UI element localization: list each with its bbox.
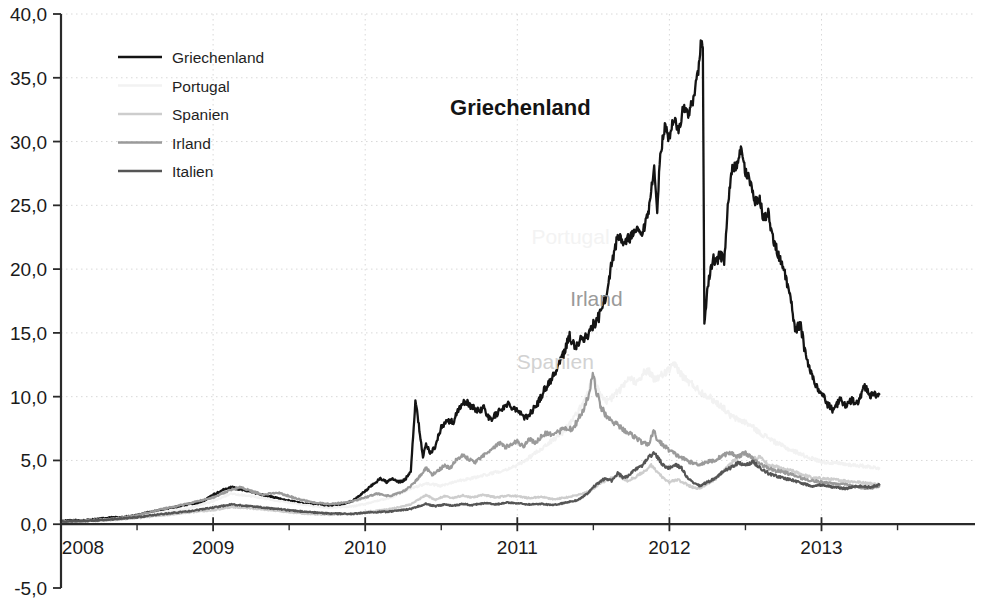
y-tick-label: 20,0 — [10, 259, 47, 280]
x-tick-label: 2008 — [62, 537, 104, 558]
y-tick-label: 5,0 — [21, 450, 47, 471]
y-tick-label: -5,0 — [14, 578, 47, 599]
x-tick-label: 2010 — [344, 537, 386, 558]
y-tick-label: 35,0 — [10, 68, 47, 89]
inline-label-irland: Irland — [570, 287, 623, 310]
y-tick-label: 30,0 — [10, 132, 47, 153]
inline-label-griechenland: Griechenland — [450, 95, 591, 120]
inline-label-spanien: Spanien — [517, 350, 594, 373]
line-chart: 40,035,030,025,020,015,010,05,00,0-5,0 2… — [0, 0, 981, 604]
legend-label-irland: Irland — [172, 135, 211, 152]
y-tick-label: 0,0 — [21, 514, 47, 535]
y-tick-label: 15,0 — [10, 323, 47, 344]
x-tick-label: 2012 — [648, 537, 690, 558]
y-tick-label: 40,0 — [10, 4, 47, 25]
inline-label-portugal: Portugal — [531, 225, 609, 248]
legend-label-portugal: Portugal — [172, 78, 230, 95]
y-tick-label: 10,0 — [10, 387, 47, 408]
x-tick-label: 2013 — [800, 537, 842, 558]
y-tick-label: 25,0 — [10, 195, 47, 216]
chart-container: 40,035,030,025,020,015,010,05,00,0-5,0 2… — [0, 0, 981, 604]
legend-label-griechenland: Griechenland — [172, 49, 264, 66]
x-tick-label: 2009 — [192, 537, 234, 558]
legend-label-italien: Italien — [172, 163, 213, 180]
x-tick-label: 2011 — [497, 537, 538, 558]
legend-label-spanien: Spanien — [172, 106, 229, 123]
